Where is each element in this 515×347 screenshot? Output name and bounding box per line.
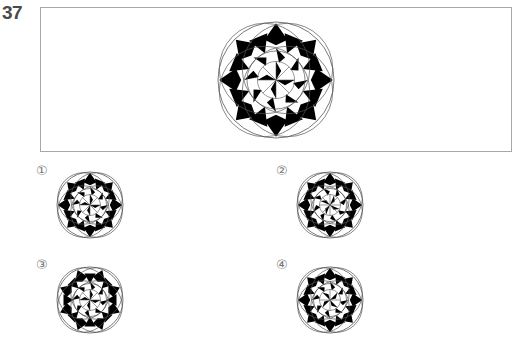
option-4-figure[interactable] bbox=[297, 267, 363, 333]
option-3-figure[interactable] bbox=[57, 267, 123, 333]
figures-canvas bbox=[0, 0, 515, 347]
option-2-figure[interactable] bbox=[297, 172, 363, 238]
option-4-label[interactable]: ④ bbox=[276, 257, 288, 272]
option-2-label[interactable]: ② bbox=[276, 163, 288, 178]
option-1-figure[interactable] bbox=[57, 172, 123, 238]
option-3-label[interactable]: ③ bbox=[36, 257, 48, 272]
question-mandala-figure bbox=[218, 22, 334, 138]
option-1-label[interactable]: ① bbox=[36, 163, 48, 178]
